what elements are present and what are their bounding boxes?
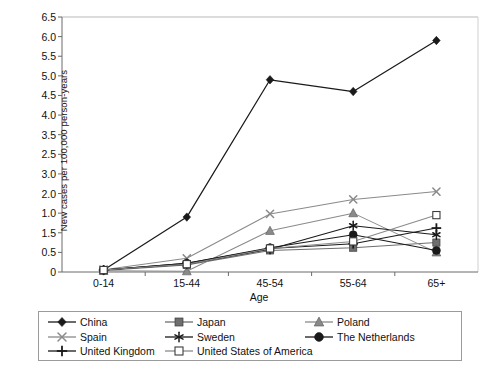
y-axis-tick-label: 6.5 xyxy=(16,11,56,23)
legend-item-poland[interactable]: Poland xyxy=(304,315,459,329)
x-axis-title: Age xyxy=(250,291,269,303)
legend-item-spain[interactable]: Spain xyxy=(39,330,164,344)
y-axis-tick-label: 5.0 xyxy=(16,70,56,82)
filled-triangle-icon xyxy=(304,315,334,329)
filled-diamond-icon xyxy=(47,315,77,329)
y-axis-tick-label: 1.0 xyxy=(16,207,56,219)
y-axis-tick-label: 6.0 xyxy=(16,31,56,43)
legend-label: Japan xyxy=(194,316,226,328)
series-china xyxy=(100,36,440,274)
legend-row: United KingdomUnited States of America xyxy=(39,344,461,359)
asterisk-icon xyxy=(164,330,194,344)
y-axis-tick-label: 2.5 xyxy=(16,148,56,160)
chart-legend: ChinaJapanPolandSpainSwedenThe Netherlan… xyxy=(38,311,462,361)
y-axis-tick-label: 0.5 xyxy=(16,246,56,258)
plot-area: New cases per 100,000 person-years 6.56.… xyxy=(0,0,492,300)
legend-item-china[interactable]: China xyxy=(39,315,164,329)
y-axis-title: New cases per 100,000 person-years xyxy=(58,26,69,276)
legend-item-united-states-of-america[interactable]: United States of America xyxy=(164,344,304,358)
legend-row: SpainSwedenThe Netherlands xyxy=(39,330,461,345)
legend-label: The Netherlands xyxy=(334,331,415,343)
legend-label: United States of America xyxy=(194,345,313,357)
plus-icon xyxy=(47,344,77,358)
y-axis-tick-label: 4.5 xyxy=(16,89,56,101)
legend-item-united-kingdom[interactable]: United Kingdom xyxy=(39,344,164,358)
legend-label: Poland xyxy=(334,316,370,328)
line-chart-figure: New cases per 100,000 person-years 6.56.… xyxy=(0,0,492,378)
legend-item-japan[interactable]: Japan xyxy=(164,315,304,329)
legend-item-the-netherlands[interactable]: The Netherlands xyxy=(304,330,459,344)
filled-square-icon xyxy=(164,315,194,329)
legend-label: United Kingdom xyxy=(77,345,155,357)
y-axis-tick-label: 3.0 xyxy=(16,168,56,180)
filled-circle-icon xyxy=(304,330,334,344)
legend-label: Spain xyxy=(77,331,107,343)
x-axis-tick-label: 65+ xyxy=(401,277,471,289)
y-axis-tick-label: 3.5 xyxy=(16,129,56,141)
x-axis-title-wrap: Age xyxy=(0,291,492,303)
y-axis-tick-label: 2.0 xyxy=(16,188,56,200)
open-square-icon xyxy=(164,344,194,358)
legend-label: Sweden xyxy=(194,331,235,343)
legend-row: ChinaJapanPoland xyxy=(39,315,461,330)
cross-x-icon xyxy=(47,330,77,344)
y-axis-tick-labels: 6.56.05.55.04.54.03.52.53.02.01.01.50.50 xyxy=(16,0,56,300)
plot-canvas xyxy=(0,0,492,300)
x-axis-tick-label: 15-44 xyxy=(152,277,222,289)
y-axis-tick-label: 4.0 xyxy=(16,109,56,121)
legend-item-sweden[interactable]: Sweden xyxy=(164,330,304,344)
y-axis-tick-label: 5.5 xyxy=(16,50,56,62)
x-axis-tick-label: 0-14 xyxy=(69,277,139,289)
x-axis-tick-label: 55-64 xyxy=(318,277,388,289)
legend-label: China xyxy=(77,316,107,328)
x-axis-tick-label: 45-54 xyxy=(235,277,305,289)
series-united-states-of-america xyxy=(100,212,440,274)
y-axis-tick-label: 1.5 xyxy=(16,227,56,239)
